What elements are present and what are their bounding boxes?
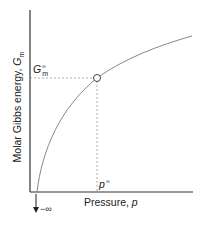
- standard-point: [94, 75, 101, 82]
- neg-infinity-label: −∞: [40, 204, 52, 214]
- gibbs-curve: [37, 36, 192, 192]
- y-axis-label: Molar Gibbs energy, Gm: [11, 47, 25, 167]
- p-standard-label: p⦵: [99, 177, 111, 190]
- g-standard-label: G⦵m: [33, 62, 48, 77]
- x-axis-label: Pressure, p: [84, 196, 138, 208]
- down-arrow-icon: [33, 207, 39, 213]
